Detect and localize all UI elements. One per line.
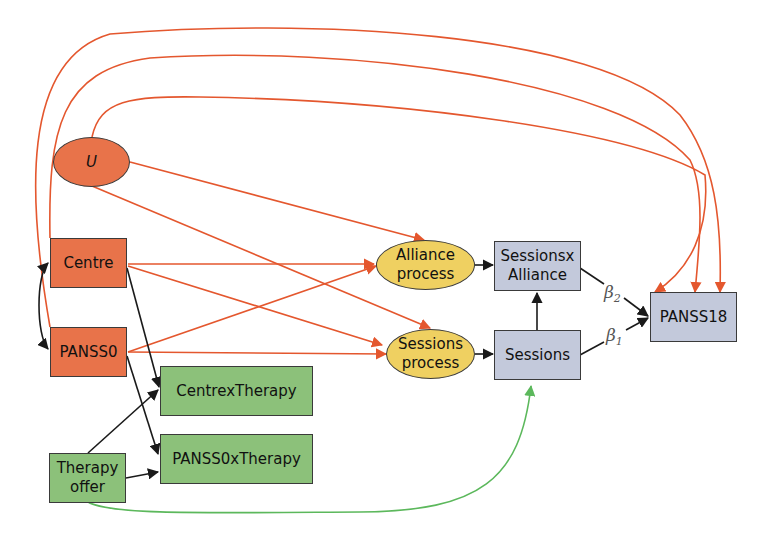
edge-panss0-alliance [128, 266, 376, 352]
node-panss0-label: PANSS0 [59, 343, 117, 362]
node-sessions-label: Sessions [505, 346, 570, 365]
node-sessions[interactable]: Sessions [494, 330, 581, 380]
node-alliance-process-label-1: Alliance [396, 246, 455, 265]
node-therapy-offer-label-1: Therapy [57, 459, 119, 478]
edge-sessionsxalliance-panss18 [580, 268, 604, 284]
node-panss0-x-therapy-label: PANSS0xTherapy [172, 450, 301, 469]
edge-sessions-panss18 [580, 342, 604, 355]
node-alliance-process[interactable]: Alliance process [376, 240, 475, 290]
edge-centre-panss18 [50, 55, 700, 292]
node-therapy-offer-label-2: offer [70, 478, 105, 497]
edge-sessionsxalliance-panss18-tail [624, 298, 648, 316]
edge-sessions-panss18-tail [626, 318, 648, 330]
node-u[interactable]: U [53, 137, 130, 187]
beta1-label: β1 [606, 325, 623, 348]
node-panss0[interactable]: PANSS0 [50, 327, 127, 377]
beta2-label: β2 [604, 282, 621, 305]
node-centre-x-therapy-label: CentrexTherapy [176, 382, 296, 401]
node-sessions-process[interactable]: Sessions process [386, 329, 475, 379]
node-panss18-label: PANSS18 [660, 308, 728, 327]
node-sessions-x-alliance[interactable]: Sessionsx Alliance [494, 241, 581, 291]
node-centre[interactable]: Centre [50, 238, 127, 288]
edge-panss0-sessions-process [128, 352, 386, 354]
node-centre-x-therapy[interactable]: CentrexTherapy [160, 366, 313, 416]
node-panss0-x-therapy[interactable]: PANSS0xTherapy [160, 434, 313, 484]
node-u-label: U [86, 153, 97, 172]
node-therapy-offer[interactable]: Therapy offer [49, 453, 126, 503]
node-sessions-process-label-1: Sessions [398, 335, 463, 354]
node-sessions-x-alliance-label-1: Sessionsx [501, 247, 575, 266]
node-alliance-process-label-2: process [397, 265, 455, 284]
node-panss18[interactable]: PANSS18 [650, 292, 737, 342]
edge-therapyoffer-panss0xtherapy [126, 472, 158, 478]
node-sessions-process-label-2: process [402, 354, 460, 373]
edge-u-alliance [130, 162, 424, 240]
node-centre-label: Centre [63, 254, 113, 273]
node-sessions-x-alliance-label-2: Alliance [508, 266, 567, 285]
